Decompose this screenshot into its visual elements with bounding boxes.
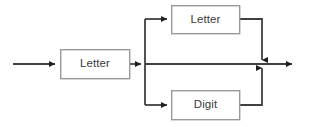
railroad-diagram: Letter Letter Digit bbox=[0, 0, 318, 127]
letter-branch-return-line bbox=[240, 19, 262, 60]
diagram-canvas bbox=[0, 0, 318, 127]
digit-branch-box[interactable] bbox=[172, 91, 240, 120]
letter-branch-box[interactable] bbox=[172, 6, 240, 34]
letter-main-box[interactable] bbox=[61, 50, 130, 79]
digit-branch-return-line bbox=[240, 68, 262, 105]
